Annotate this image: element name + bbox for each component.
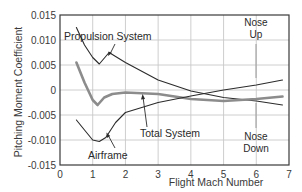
data-series	[76, 28, 282, 142]
total-system-arrowhead-icon	[141, 94, 145, 100]
x-axis-title: Flight Mach Number	[169, 176, 264, 188]
y-tick-label: 0.015	[31, 10, 56, 21]
y-tick-label: -0.015	[28, 160, 57, 171]
y-axis-title: Pitching Moment Coefficient	[12, 27, 24, 158]
x-tick-label: 3	[155, 169, 161, 180]
nose-down-label-line2: Down	[243, 143, 269, 154]
nose-up-label-line1: Nose	[244, 17, 268, 28]
total-system-arrow	[143, 97, 147, 127]
y-tick-label: 0.005	[31, 60, 56, 71]
x-tick-label: 1	[90, 169, 96, 180]
y-tick-label: -0.010	[28, 135, 57, 146]
total-system-label: Total System	[140, 127, 200, 139]
y-tick-label: 0	[50, 85, 56, 96]
x-tick-label: 2	[123, 169, 129, 180]
propulsion-system-label: Propulsion System	[64, 30, 152, 42]
y-tick-label: -0.005	[28, 110, 57, 121]
y-tick-label: 0.010	[31, 35, 56, 46]
pitching-moment-chart: 012345670.0150.0100.0050-0.005-0.010-0.0…	[0, 0, 302, 192]
airframe-label: Airframe	[88, 149, 128, 161]
nose-up-label-line2: Up	[250, 29, 263, 40]
nose-down-label-line1: Nose	[244, 131, 268, 142]
airframe-arrow	[108, 135, 115, 148]
x-tick-label: 0	[57, 169, 63, 180]
x-tick-label: 7	[286, 169, 292, 180]
